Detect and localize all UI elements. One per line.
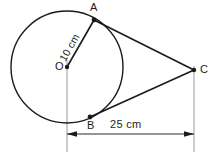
label-distance-measurement: 25 cm: [110, 119, 141, 130]
geometry-canvas: [0, 0, 217, 157]
dimension-arrow-right-icon: [184, 131, 194, 137]
point-dot-a: [92, 18, 97, 23]
dimension-arrow-left-icon: [67, 131, 77, 137]
label-point-c: C: [200, 64, 208, 75]
point-dot-o: [65, 65, 69, 69]
label-point-o: O: [55, 61, 64, 72]
tangent-line-bc: [90, 70, 194, 117]
point-dot-c: [192, 68, 196, 72]
geometry-figure: A B O C 10 cm 25 cm: [0, 0, 217, 157]
label-point-a: A: [90, 2, 97, 13]
tangent-line-ac: [94, 20, 194, 70]
label-point-b: B: [87, 120, 94, 131]
